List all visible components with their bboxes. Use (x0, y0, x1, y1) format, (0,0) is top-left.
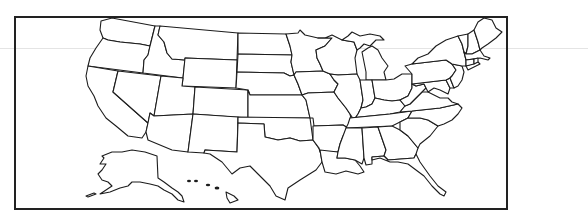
hawaii-island-molokai (206, 184, 210, 187)
hawaii-island-oahu (194, 180, 198, 183)
hawaii-island-kauai (187, 180, 191, 183)
state-AZ (146, 113, 193, 152)
state-MI (362, 46, 388, 80)
state-MT (158, 26, 238, 60)
state-FL (372, 154, 446, 196)
state-NM (188, 114, 238, 153)
hawaii-island-big-island (226, 192, 238, 203)
state-AK (98, 150, 184, 202)
state-WY (182, 58, 237, 88)
state-CO (193, 87, 248, 118)
state-ND (238, 33, 292, 55)
alaska-aleutian-islands (86, 193, 96, 197)
hawaii-island-maui (215, 186, 220, 189)
us-outline-map (0, 0, 588, 220)
